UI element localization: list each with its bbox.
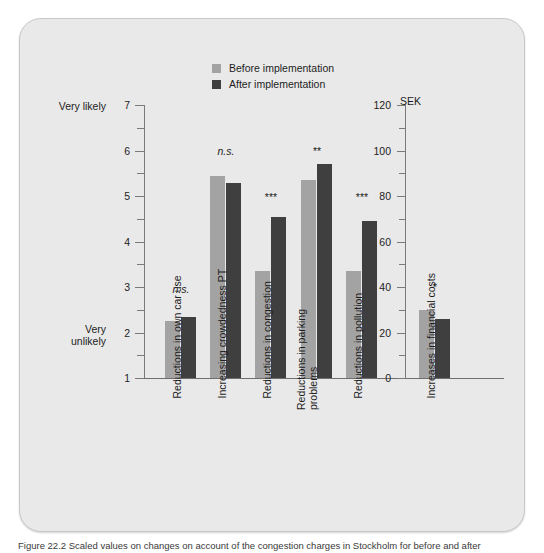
- category-label-congestion: Reductions in congestion: [262, 281, 274, 398]
- left-tick-1: [135, 378, 144, 379]
- right-tick-50: [399, 264, 406, 265]
- right-tick-30: [399, 310, 406, 311]
- left-axis-anchor-low: Very unlikely: [22, 323, 106, 347]
- category-label-crowdedness-pt: Increasing crowdedness PT: [217, 269, 229, 399]
- left-tick-1-5: [137, 355, 144, 356]
- left-tick-4: [135, 242, 144, 243]
- category-label-financial-costs: Increases in financial costs: [426, 273, 438, 398]
- left-tick-6: [135, 151, 144, 152]
- left-tick-2-5: [137, 310, 144, 311]
- left-tick-3: [135, 287, 144, 288]
- bar-after-crowdedness-pt: [226, 183, 241, 378]
- bar-after-congestion: [271, 217, 286, 378]
- left-tick-label-2: 2: [112, 328, 130, 338]
- annotation-pollution: ***: [342, 192, 382, 202]
- right-tick-100: [397, 151, 406, 152]
- plot-area: 7 6 5 4 3 2 1 Very likely Very unlikely …: [20, 19, 526, 533]
- annotation-parking-problems: **: [297, 146, 337, 156]
- figure-panel: Before implementation After implementati…: [19, 18, 525, 532]
- right-tick-label-100: 100: [365, 146, 391, 156]
- right-tick-110: [399, 128, 406, 129]
- right-tick-10: [399, 355, 406, 356]
- left-tick-label-5: 5: [112, 191, 130, 201]
- left-tick-7: [135, 105, 144, 106]
- left-tick-5-5: [137, 173, 144, 174]
- right-tick-0: [397, 378, 406, 379]
- category-label-parking-problems: Reductions in parking problems: [296, 270, 319, 410]
- right-tick-70: [399, 219, 406, 220]
- left-tick-label-4: 4: [112, 237, 130, 247]
- category-label-own-car-use: Reductions in own car use: [172, 275, 184, 398]
- bar-after-parking-problems: [317, 164, 332, 378]
- left-tick-label-7: 7: [112, 100, 130, 110]
- bar-after-own-car-use: [181, 317, 196, 378]
- left-tick-4-5: [137, 219, 144, 220]
- left-tick-6-5: [137, 128, 144, 129]
- right-tick-label-120: 120: [365, 100, 391, 110]
- right-tick-80: [397, 196, 406, 197]
- annotation-congestion: ***: [251, 192, 291, 202]
- category-label-pollution: Reductions in pollution: [353, 293, 365, 399]
- left-tick-label-6: 6: [112, 146, 130, 156]
- left-tick-label-3: 3: [112, 282, 130, 292]
- x-axis-baseline: [142, 378, 504, 379]
- right-tick-20: [397, 333, 406, 334]
- right-tick-120: [397, 105, 406, 106]
- figure-caption: Figure 22.2 Scaled values on changes on …: [18, 540, 538, 553]
- left-tick-3-5: [137, 264, 144, 265]
- bar-after-pollution: [362, 221, 377, 378]
- left-tick-5: [135, 196, 144, 197]
- right-tick-40: [397, 287, 406, 288]
- right-tick-60: [397, 242, 406, 243]
- annotation-crowdedness-pt: n.s.: [206, 146, 246, 156]
- left-axis-line: [144, 105, 145, 378]
- left-axis-anchor-high: Very likely: [22, 100, 106, 112]
- left-tick-label-1: 1: [112, 373, 130, 383]
- bar-after-financial-costs: [435, 319, 450, 378]
- right-tick-90: [399, 173, 406, 174]
- left-tick-2: [135, 333, 144, 334]
